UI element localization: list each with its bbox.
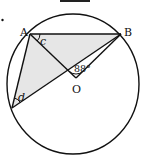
bullet-dot [1, 19, 3, 21]
angle-label-d: d [18, 91, 25, 104]
point-label-b: B [124, 26, 132, 39]
point-label-o: O [72, 83, 81, 96]
angle-label-c: c [40, 35, 46, 48]
circle-geometry-diagram: A B O c d 88° [0, 0, 144, 156]
angle-label-88: 88° [74, 63, 91, 74]
point-label-a: A [19, 26, 29, 39]
top-crop-artifact [60, 0, 90, 2]
